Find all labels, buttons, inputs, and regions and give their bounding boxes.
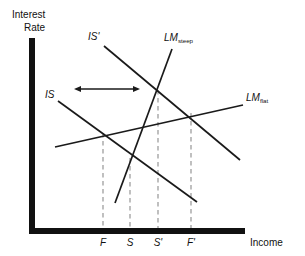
arrow-head-left-icon <box>74 86 81 92</box>
y-axis-label-line1: Interest <box>12 9 46 20</box>
x-axis-label: Income <box>250 237 283 248</box>
x-tick-label-F-prime: F' <box>187 237 196 248</box>
y-axis-label-line2: Rate <box>24 22 46 33</box>
x-tick-label-S-prime: S' <box>154 237 164 248</box>
curve-label-lm-steep-subscript: steep <box>178 37 194 44</box>
curve-lm-steep <box>115 49 172 203</box>
x-tick-label-F: F <box>100 237 107 248</box>
y-axis <box>29 38 35 234</box>
curve-label-lm-steep: LMsteep <box>164 32 194 44</box>
curve-label-lm-steep-base: LM <box>164 32 179 43</box>
arrow-head-right-icon <box>133 86 140 92</box>
curve-label-lm-flat-subscript: flat <box>260 97 269 104</box>
x-tick-label-S: S <box>127 237 134 248</box>
curve-label-lm-flat: LMflat <box>246 92 268 104</box>
curve-is-prime <box>104 46 240 160</box>
diagram-canvas: Interest Rate Income IS IS' LMsteep LMfl… <box>0 0 305 256</box>
x-axis <box>29 228 245 234</box>
is-lm-diagram: Interest Rate Income IS IS' LMsteep LMfl… <box>0 0 305 256</box>
curve-is <box>58 101 197 202</box>
curve-label-is-prime: IS' <box>88 31 100 42</box>
curve-label-is: IS <box>45 89 55 100</box>
curve-label-lm-flat-base: LM <box>246 92 261 103</box>
